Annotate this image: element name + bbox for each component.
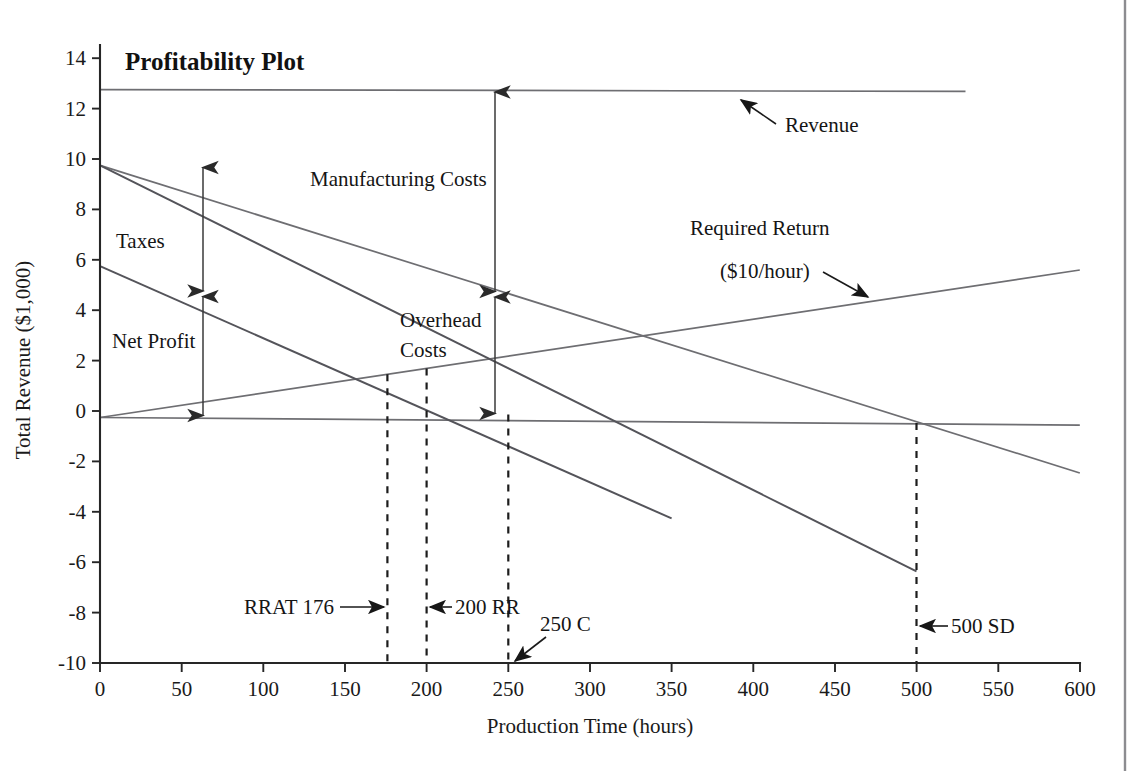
callout-group: RRAT 176 200 RR 250 C 500 SD <box>244 595 1015 661</box>
y-tick-label: -4 <box>69 500 87 524</box>
y-tick-label: 0 <box>76 399 87 423</box>
series-label-manufacturing-costs: Manufacturing Costs <box>310 167 487 191</box>
leader-arrow-revenue <box>741 100 776 124</box>
y-tick-label: 8 <box>76 197 87 221</box>
y-tick-label: 2 <box>76 349 87 373</box>
y-tick-label: 12 <box>65 97 86 121</box>
x-tick-label: 250 <box>493 677 525 701</box>
x-tick-label: 100 <box>248 677 280 701</box>
y-tick-label: -2 <box>69 449 87 473</box>
y-tick-labels: 14 12 10 8 6 4 2 0 -2 -4 -6 -8 -10 <box>58 46 87 675</box>
dimension-arrows-group <box>203 92 495 416</box>
series-label-net-profit: Net Profit <box>112 329 196 353</box>
y-tick-label: 14 <box>65 46 87 70</box>
series-line-zero-baseline <box>100 418 1080 426</box>
inline-labels-group: Revenue Required Return ($10/hour) Taxes… <box>112 113 858 362</box>
y-axis-title: Total Revenue ($1,000) <box>11 261 35 460</box>
y-tick-label: 6 <box>76 248 87 272</box>
y-tick-label: 4 <box>76 298 87 322</box>
x-tick-label: 450 <box>819 677 851 701</box>
callout-label-250-c: 250 C <box>540 612 591 636</box>
series-line-manufacturing-boundary <box>100 165 1080 473</box>
series-line-taxes-boundary <box>100 266 672 518</box>
x-axis-title: Production Time (hours) <box>487 714 694 738</box>
profitability-plot-svg: 14 12 10 8 6 4 2 0 -2 -4 -6 -8 -10 0 50 … <box>0 0 1137 771</box>
y-tick-label: 10 <box>65 147 86 171</box>
series-label-required-return-line2: ($10/hour) <box>720 259 810 283</box>
x-tick-label: 150 <box>329 677 361 701</box>
leader-arrow-required-return <box>823 272 868 297</box>
y-tick-label: -6 <box>69 550 87 574</box>
y-tick-label: -8 <box>69 601 87 625</box>
callout-label-200-rr: 200 RR <box>455 595 520 619</box>
x-ticks <box>100 663 1080 672</box>
y-tick-label: -10 <box>58 651 86 675</box>
x-tick-label: 600 <box>1064 677 1096 701</box>
x-tick-label: 400 <box>738 677 770 701</box>
x-tick-label: 50 <box>171 677 192 701</box>
series-line-required-return <box>100 270 1080 418</box>
y-ticks <box>92 58 100 663</box>
plot-title: Profitability Plot <box>125 48 305 75</box>
series-label-taxes: Taxes <box>116 229 165 253</box>
chart-page: 14 12 10 8 6 4 2 0 -2 -4 -6 -8 -10 0 50 … <box>0 0 1137 771</box>
series-label-overhead-costs-line2: Costs <box>400 338 447 362</box>
callout-arrow-250-c <box>515 637 546 661</box>
x-tick-label: 200 <box>411 677 443 701</box>
x-tick-label: 550 <box>983 677 1015 701</box>
callout-label-rrat-176: RRAT 176 <box>244 595 334 619</box>
series-label-overhead-costs-line1: Overhead <box>400 308 482 332</box>
x-tick-label: 0 <box>95 677 106 701</box>
x-tick-label: 500 <box>901 677 933 701</box>
callout-label-500-sd: 500 SD <box>951 614 1015 638</box>
series-line-revenue <box>100 90 966 92</box>
x-tick-label: 350 <box>656 677 688 701</box>
axes-group <box>92 45 1080 672</box>
series-label-required-return-line1: Required Return <box>690 216 830 240</box>
series-group <box>100 90 1080 572</box>
x-tick-labels: 0 50 100 150 200 250 300 350 400 450 500… <box>95 677 1096 701</box>
x-tick-label: 300 <box>574 677 606 701</box>
series-label-revenue: Revenue <box>785 113 858 137</box>
